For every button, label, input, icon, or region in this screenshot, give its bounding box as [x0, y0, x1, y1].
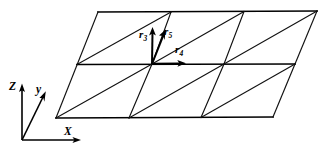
- mesh-diagonal-upper-1: [77, 12, 171, 65]
- lattice-diagram-svg: [0, 0, 329, 151]
- mesh-diagonals-lower-row: [56, 64, 295, 118]
- axis-label-z: Z: [9, 81, 16, 93]
- mesh-diagonal-lower-3: [201, 64, 295, 118]
- mesh-diagonal-upper-3: [224, 11, 317, 64]
- mesh-diagonal-upper-2: [152, 12, 244, 65]
- vector-label-r3: r3: [139, 29, 147, 40]
- vector-label-r4: r4: [175, 44, 183, 55]
- vector-r5-shaft: [152, 35, 164, 64]
- axis-y: [22, 91, 46, 140]
- axis-label-y: y: [36, 84, 41, 96]
- mesh-diagonals-upper-row: [77, 11, 317, 65]
- vector-label-r3-subscript: 3: [143, 34, 147, 43]
- mesh-diagonal-lower-1: [56, 64, 152, 118]
- axis-y-shaft: [22, 97, 43, 140]
- vector-r3-shaft: [152, 33, 153, 64]
- mesh-edge-bottom: [56, 117, 273, 118]
- mesh-edge-top: [98, 11, 317, 12]
- figure-container: r3 r5 r4 Z y X: [0, 0, 329, 151]
- vector-label-r5: r5: [164, 26, 172, 37]
- vector-label-r4-subscript: 4: [179, 49, 183, 58]
- vector-label-r5-subscript: 5: [168, 31, 172, 40]
- mesh-row-line-middle: [77, 64, 295, 65]
- mesh-diagonal-lower-2: [129, 64, 224, 118]
- mesh-row-lines: [77, 64, 295, 65]
- axis-label-x: X: [64, 126, 72, 138]
- axis-x: [22, 137, 81, 143]
- axis-z: [19, 84, 25, 141]
